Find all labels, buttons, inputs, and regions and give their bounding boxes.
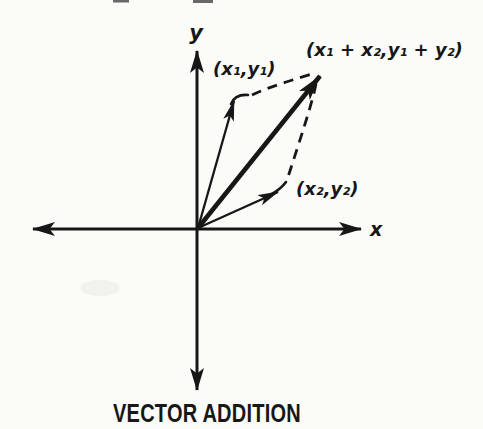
resultant-vector — [198, 76, 320, 228]
sum-point-label: (x₁ + x₂,y₁ + y₂) — [306, 39, 463, 60]
vector-2-point-label: (x₂,y₂) — [296, 178, 358, 199]
x-axis-label: x — [369, 218, 383, 240]
vector-addition-figure: y x (x₁,y₁) (x₂,y₂) (x₁ + x₂,y₁ + y₂) VE… — [0, 0, 483, 429]
figure-caption: VECTOR ADDITION — [113, 400, 301, 428]
scan-speck — [113, 0, 129, 3]
scan-speck — [193, 0, 213, 3]
scan-smudge — [80, 280, 120, 296]
y-axis-label: y — [189, 21, 204, 45]
diagram-canvas: y x (x₁,y₁) (x₂,y₂) (x₁ + x₂,y₁ + y₂) VE… — [0, 0, 483, 429]
vector-1-point-label: (x₁,y₁) — [213, 58, 275, 79]
